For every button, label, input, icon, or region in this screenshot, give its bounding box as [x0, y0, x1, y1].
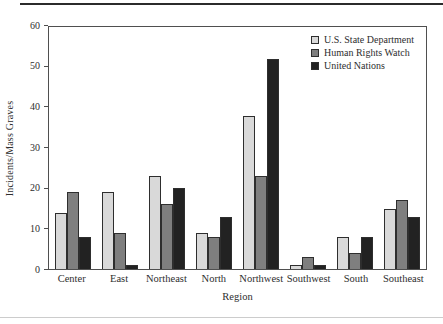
top-rule — [20, 3, 443, 5]
legend-label: Human Rights Watch — [324, 48, 410, 58]
bar — [408, 217, 420, 269]
bar — [396, 200, 408, 269]
figure-page: Incidents/Mass Graves 0102030405060 U.S.… — [0, 0, 443, 324]
x-category-label: Southeast — [380, 273, 427, 284]
bar — [55, 213, 67, 269]
y-axis-ticks: 0102030405060 — [0, 26, 48, 270]
bar — [255, 176, 267, 269]
bar-group-north — [190, 27, 237, 269]
legend: U.S. State DepartmentHuman Rights WatchU… — [311, 33, 414, 72]
x-category-label: East — [95, 273, 142, 284]
y-tick: 30 — [0, 147, 48, 148]
x-category-label: Southwest — [285, 273, 332, 284]
bar — [302, 257, 314, 269]
y-tick-label: 40 — [30, 102, 40, 112]
legend-swatch-icon — [311, 62, 319, 70]
y-tick: 50 — [0, 66, 48, 67]
x-category-label: Northwest — [238, 273, 285, 284]
y-tick-label: 10 — [30, 224, 40, 234]
legend-item: United Nations — [311, 59, 414, 72]
legend-swatch-icon — [311, 49, 319, 57]
y-tick: 60 — [0, 25, 48, 26]
bar-group-northeast — [143, 27, 190, 269]
bar — [384, 209, 396, 270]
y-tick: 0 — [0, 269, 48, 270]
bar — [243, 116, 255, 269]
bar-group-east — [96, 27, 143, 269]
bar — [196, 233, 208, 269]
x-category-label: Northeast — [143, 273, 190, 284]
y-tick-label: 0 — [35, 265, 40, 275]
bar — [126, 265, 138, 269]
bar — [102, 192, 114, 269]
bar — [208, 237, 220, 269]
x-category-label: Center — [48, 273, 95, 284]
y-tick-label: 30 — [30, 143, 40, 153]
bar — [290, 265, 302, 269]
bar-group-center — [49, 27, 96, 269]
x-category-label: North — [190, 273, 237, 284]
legend-item: U.S. State Department — [311, 33, 414, 46]
bar — [314, 265, 326, 269]
legend-label: United Nations — [324, 61, 385, 71]
y-tick-label: 60 — [30, 21, 40, 31]
legend-swatch-icon — [311, 36, 319, 44]
bar — [349, 253, 361, 269]
bar — [173, 188, 185, 269]
y-tick: 20 — [0, 188, 48, 189]
bar — [79, 237, 91, 269]
bar-group-northwest — [238, 27, 285, 269]
y-tick: 10 — [0, 228, 48, 229]
legend-label: U.S. State Department — [324, 35, 414, 45]
bar — [161, 204, 173, 269]
y-tick-label: 50 — [30, 61, 40, 71]
bar — [220, 217, 232, 269]
x-axis-title: Region — [48, 291, 427, 302]
y-tick: 40 — [0, 106, 48, 107]
bar — [267, 59, 279, 269]
bar — [361, 237, 373, 269]
x-category-label: South — [332, 273, 379, 284]
bar — [67, 192, 79, 269]
x-category-labels: CenterEastNortheastNorthNorthwestSouthwe… — [48, 273, 427, 284]
y-tick-label: 20 — [30, 183, 40, 193]
bottom-rule — [0, 317, 443, 318]
bar — [114, 233, 126, 269]
bar — [149, 176, 161, 269]
bar — [337, 237, 349, 269]
legend-item: Human Rights Watch — [311, 46, 414, 59]
plot-area: U.S. State DepartmentHuman Rights WatchU… — [48, 26, 427, 270]
